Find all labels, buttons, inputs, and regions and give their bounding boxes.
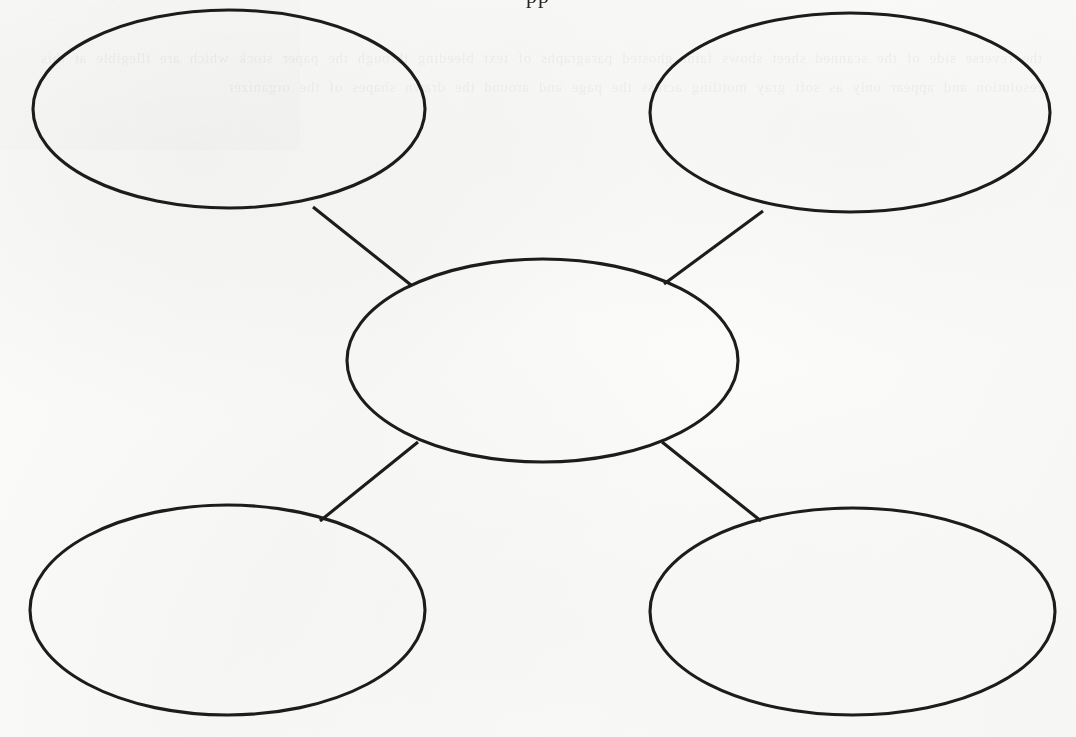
worksheet-page: the reverse side of the scanned sheet sh… [0, 0, 1076, 737]
edge-center-top-right [664, 211, 763, 284]
edge-center-bottom-left [320, 442, 418, 521]
bubble-map-diagram [0, 0, 1076, 737]
bubble-top-right[interactable] [650, 13, 1050, 212]
edge-center-bottom-right [662, 442, 761, 521]
edge-center-top-left [313, 207, 411, 285]
bubble-bottom-right[interactable] [650, 508, 1055, 715]
bubble-top-left[interactable] [33, 10, 425, 208]
bubble-bottom-left[interactable] [30, 505, 425, 715]
center-bubble[interactable] [347, 259, 738, 462]
